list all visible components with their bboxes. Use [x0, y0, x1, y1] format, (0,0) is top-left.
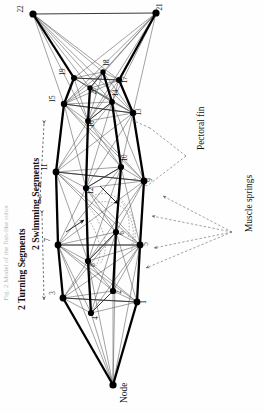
- node-dot-14[interactable]: [109, 99, 115, 105]
- muscle-springs-label: Muscle springs: [244, 175, 254, 232]
- node-number-14: 14: [112, 89, 120, 96]
- structural-spring: [56, 167, 121, 172]
- structural-spring: [56, 102, 112, 172]
- leader-line-group: [132, 120, 232, 268]
- structural-spring: [74, 78, 88, 121]
- node-number-12: 12: [87, 187, 95, 194]
- structural-spring: [64, 104, 86, 188]
- node-dot-11[interactable]: [53, 169, 60, 176]
- rail-terminal-link: [63, 298, 113, 385]
- node-dot-18[interactable]: [100, 69, 105, 74]
- structural-spring: [88, 261, 113, 385]
- node-dot-group: [29, 9, 159, 388]
- pectoral-fin-label: Pectoral fin: [196, 107, 206, 150]
- node-number-13: 13: [135, 108, 143, 115]
- node-number-17: 17: [121, 76, 129, 83]
- node-dot-22[interactable]: [29, 10, 36, 17]
- muscle-spring-group: [66, 186, 135, 266]
- pectoral-fin-leader: [150, 128, 186, 156]
- node-dot-7[interactable]: [55, 242, 62, 249]
- node-label: Node: [119, 383, 129, 403]
- node-number-10: 10: [121, 154, 129, 161]
- cross-rung: [33, 13, 156, 14]
- node-number-9: 9: [146, 178, 154, 182]
- structural-spring: [63, 245, 140, 298]
- structural-spring: [58, 245, 88, 261]
- rung-group: [33, 13, 156, 313]
- node-number-21: 21: [156, 3, 164, 10]
- node-dot-15[interactable]: [61, 101, 67, 107]
- structural-spring: [58, 245, 113, 385]
- structural-spring: [86, 188, 140, 245]
- node-number-22: 22: [17, 5, 25, 12]
- figure-canvas: Fig. 2 Model of the fish-like robot Pect…: [0, 0, 265, 414]
- rail-terminal-link: [33, 14, 74, 78]
- structural-spring: [63, 291, 113, 298]
- node-number-2: 2: [115, 290, 123, 294]
- node-number-8: 8: [89, 263, 97, 267]
- structural-spring: [33, 14, 64, 104]
- node-number-15: 15: [49, 95, 57, 102]
- node-dot-3[interactable]: [60, 295, 67, 302]
- node-number-3: 3: [49, 291, 57, 295]
- thin-link-group: [33, 13, 156, 385]
- structural-spring: [74, 13, 156, 78]
- node-number-18: 18: [103, 59, 111, 66]
- muscle-springs-leader: [152, 216, 232, 232]
- swimming-segments-label: 2 Swimming Segments: [30, 158, 41, 250]
- rail-group: [33, 13, 156, 385]
- caption-fragment: Fig. 2 Model of the fish-like robot: [2, 205, 10, 301]
- node-dot-tail[interactable]: [109, 381, 116, 388]
- structural-spring: [58, 167, 121, 245]
- muscle-springs-leader: [154, 232, 232, 248]
- cross-rung: [63, 298, 137, 302]
- node-number-4: 4: [92, 316, 100, 320]
- node-number-7: 7: [44, 238, 52, 242]
- node-number-11: 11: [41, 164, 49, 171]
- muscle-springs-leader: [163, 196, 232, 232]
- node-number-16: 16: [88, 120, 96, 127]
- structural-spring: [33, 14, 112, 102]
- structural-spring: [33, 14, 133, 113]
- node-number-1: 1: [140, 300, 148, 304]
- muscle-springs-leader: [146, 232, 232, 268]
- structural-spring: [133, 13, 156, 113]
- turning-segments-label: 2 Turning Segments: [16, 228, 27, 310]
- node-number-6: 6: [118, 231, 126, 235]
- rail-terminal-link: [119, 13, 156, 80]
- node-dot-19[interactable]: [71, 75, 77, 81]
- node-dot-10[interactable]: [118, 164, 124, 170]
- node-number-20: 20: [90, 87, 98, 94]
- structural-spring: [91, 313, 113, 385]
- structural-spring: [113, 245, 140, 385]
- rail-terminal-link: [113, 302, 137, 385]
- node-number-5: 5: [142, 242, 150, 246]
- turning-segment-bracket: [42, 214, 44, 300]
- node-number-19: 19: [59, 68, 67, 75]
- spring-pointer-arrow: [66, 220, 84, 232]
